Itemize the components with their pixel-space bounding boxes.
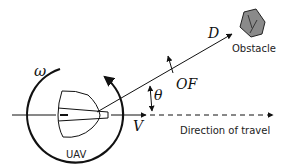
- velocity-label: V: [133, 118, 145, 134]
- obstacle-icon: [240, 9, 265, 37]
- theta-label: θ: [154, 87, 163, 103]
- uav-optic-flow-diagram: ω D Obstacle θ OF V Direction of travel …: [0, 0, 287, 168]
- uav-body-icon: [58, 91, 108, 137]
- theta-angle-arrow: [150, 86, 152, 111]
- optic-flow-label: OF: [176, 76, 198, 92]
- direction-label: Direction of travel: [180, 125, 270, 136]
- omega-label: ω: [34, 62, 46, 80]
- distance-label: D: [207, 25, 219, 41]
- distance-line: [97, 34, 232, 112]
- obstacle-label: Obstacle: [232, 43, 276, 54]
- uav-label: UAV: [66, 149, 87, 160]
